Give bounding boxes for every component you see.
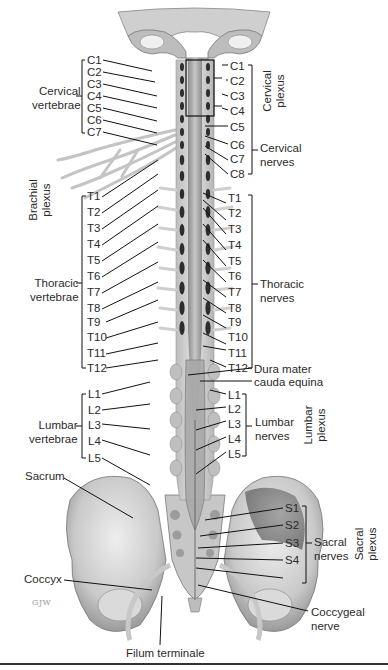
vertebra-l2: L2 bbox=[88, 404, 101, 416]
nerve-t4: T4 bbox=[228, 239, 241, 251]
vertebra-l3: L3 bbox=[88, 419, 101, 431]
label-line: plexus bbox=[366, 520, 379, 568]
nerve-l2: L2 bbox=[228, 403, 241, 415]
sacrum-label: Sacrum bbox=[25, 470, 65, 482]
nerve-t7: T7 bbox=[228, 286, 241, 298]
vertebra-t11: T11 bbox=[87, 347, 106, 359]
nerve-c5: C5 bbox=[230, 121, 245, 133]
nerve-t2: T2 bbox=[228, 207, 241, 219]
vertebra-c1: C1 bbox=[87, 54, 102, 66]
lumbar-vertebrae-label: Lumbar vertebrae bbox=[29, 418, 78, 446]
vertebra-c4: C4 bbox=[87, 90, 102, 102]
nerve-t1: T1 bbox=[228, 192, 241, 204]
label-line: Thoracic bbox=[260, 277, 304, 291]
nerve-s2: S2 bbox=[285, 519, 299, 531]
nerve-s3: S3 bbox=[285, 537, 299, 549]
nerve-t11: T11 bbox=[228, 347, 247, 359]
nerve-l5: L5 bbox=[228, 448, 241, 460]
spinal-cord-diagram: Cervical vertebrae C1 C2 C3 C4 C5 C6 C7 … bbox=[0, 0, 388, 670]
label-line: nerves bbox=[260, 291, 304, 305]
nerve-t3: T3 bbox=[228, 223, 241, 235]
label-line: vertebrae bbox=[29, 432, 78, 446]
lumbar-plexus-label: Lumbar plexus bbox=[302, 400, 327, 450]
sacral-nerves-label: Sacral nerves bbox=[314, 535, 349, 563]
nerve-t12: T12 bbox=[228, 362, 248, 374]
nerve-t10: T10 bbox=[228, 331, 248, 343]
coccyx-label: Coccyx bbox=[24, 573, 62, 585]
label-line: nerves bbox=[260, 155, 302, 169]
label-line: Cervical bbox=[261, 64, 274, 118]
nerve-s4: S4 bbox=[285, 554, 299, 566]
left-brackets bbox=[76, 60, 86, 458]
vertebra-t8: T8 bbox=[87, 302, 100, 314]
filum-terminale-label: Filum terminale bbox=[126, 647, 205, 659]
nerve-c8: C8 bbox=[230, 168, 245, 180]
nerve-t5: T5 bbox=[228, 255, 241, 267]
label-line: vertebrae bbox=[30, 290, 79, 304]
coccygeal-nerve-label: Coccygeal nerve bbox=[311, 605, 365, 633]
nerve-t9: T9 bbox=[228, 316, 241, 328]
vertebra-l5: L5 bbox=[88, 452, 101, 464]
label-line: nerves bbox=[314, 549, 349, 563]
thoracic-nerves-label: Thoracic nerves bbox=[260, 277, 304, 305]
brachial-plexus-nerves bbox=[58, 130, 176, 198]
cervical-plexus-label: Cervical plexus bbox=[261, 64, 286, 118]
bottom-divider bbox=[0, 663, 388, 665]
label-line: Brachial bbox=[27, 175, 40, 225]
vertebra-c6: C6 bbox=[87, 114, 102, 126]
vertebra-l4: L4 bbox=[88, 435, 101, 447]
nerve-c2: C2 bbox=[230, 75, 245, 87]
nerve-l4: L4 bbox=[228, 433, 241, 445]
vertebra-t3: T3 bbox=[87, 222, 100, 234]
nerve-c3: C3 bbox=[230, 90, 245, 102]
label-line: vertebrae bbox=[32, 98, 81, 112]
label-line: Sacral bbox=[353, 520, 366, 568]
label-line: Thoracic bbox=[30, 276, 79, 290]
brachial-plexus-label: Brachial plexus bbox=[27, 175, 52, 225]
vertebra-c7: C7 bbox=[87, 126, 102, 138]
vertebra-t2: T2 bbox=[87, 206, 100, 218]
vertebra-t7: T7 bbox=[87, 286, 100, 298]
nerve-c1: C1 bbox=[230, 60, 245, 72]
label-line: Sacral bbox=[314, 535, 349, 549]
sacral-plexus-label: Sacral plexus bbox=[353, 520, 378, 568]
cervical-nerves-label: Cervical nerves bbox=[260, 141, 302, 169]
dura-mater-label: Dura mater bbox=[254, 363, 312, 375]
vertebra-t6: T6 bbox=[87, 270, 100, 282]
thoracic-vertebrae-label: Thoracic vertebrae bbox=[30, 276, 79, 304]
label-line: Cervical bbox=[32, 84, 81, 98]
nerve-l3: L3 bbox=[228, 418, 241, 430]
label-line: plexus bbox=[40, 175, 53, 225]
artist-signature: GJW bbox=[32, 598, 51, 607]
nerve-c6: C6 bbox=[230, 139, 245, 151]
label-line: plexus bbox=[274, 64, 287, 118]
vertebra-l1: L1 bbox=[88, 388, 101, 400]
label-line: Lumbar bbox=[302, 400, 315, 450]
vertebra-t1: T1 bbox=[87, 190, 100, 202]
nerve-c7: C7 bbox=[230, 153, 245, 165]
vertebra-t9: T9 bbox=[87, 316, 100, 328]
cauda-equina-label: cauda equina bbox=[254, 376, 323, 388]
nerve-c4: C4 bbox=[230, 105, 245, 117]
label-line: Coccygeal bbox=[311, 605, 365, 619]
label-line: nerve bbox=[311, 619, 365, 633]
label-line: Lumbar bbox=[255, 415, 294, 429]
nerve-t8: T8 bbox=[228, 302, 241, 314]
vertebra-c5: C5 bbox=[87, 102, 102, 114]
skull-base bbox=[118, 8, 270, 60]
lumbar-nerves-label: Lumbar nerves bbox=[255, 415, 294, 443]
cervical-vertebrae-label: Cervical vertebrae bbox=[32, 84, 81, 112]
vertebra-t12: T12 bbox=[87, 362, 107, 374]
nerve-l1: L1 bbox=[228, 389, 241, 401]
vertebra-c2: C2 bbox=[87, 66, 102, 78]
label-line: nerves bbox=[255, 429, 294, 443]
vertebra-t10: T10 bbox=[87, 331, 107, 343]
label-line: plexus bbox=[315, 400, 328, 450]
nerve-t6: T6 bbox=[228, 270, 241, 282]
vertebra-t5: T5 bbox=[87, 254, 100, 266]
label-line: Lumbar bbox=[29, 418, 78, 432]
nerve-s1: S1 bbox=[285, 502, 299, 514]
vertebra-t4: T4 bbox=[87, 238, 100, 250]
label-line: Cervical bbox=[260, 141, 302, 155]
vertebra-c3: C3 bbox=[87, 78, 102, 90]
